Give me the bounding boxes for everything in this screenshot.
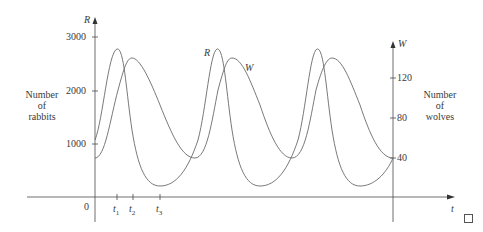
rabbit-axis-title: Number of rabbits: [22, 89, 62, 122]
origin-label: 0: [84, 201, 89, 212]
wolf-axis-arrow-icon: [391, 41, 396, 48]
end-of-proof-square-icon: [464, 214, 473, 223]
tick-t1: t1: [113, 203, 119, 219]
wolf-axis-title: Number of wolves: [419, 89, 461, 122]
rabbit-axis-symbol: R: [84, 14, 90, 25]
rabbit-tick-3000: 3000: [66, 31, 86, 42]
t-axis-symbol: t: [451, 203, 454, 214]
rabbit-axis-arrow-icon: [93, 17, 98, 24]
curve-label-w: W: [245, 62, 253, 73]
wolf-tick-80: 80: [397, 112, 407, 123]
wolf-tick-40: 40: [397, 152, 407, 163]
wolf-tick-120: 120: [397, 72, 412, 83]
tick-t3: t3: [156, 203, 162, 219]
wolves-curve: [95, 58, 393, 158]
curve-label-r: R: [204, 47, 210, 58]
rabbit-tick-1000: 1000: [66, 138, 86, 149]
wolf-axis-symbol: W: [398, 38, 406, 49]
rabbits-curve: [95, 49, 393, 186]
t-axis-arrow-icon: [447, 195, 455, 200]
rabbit-tick-2000: 2000: [66, 85, 86, 96]
tick-t2: t2: [129, 203, 135, 219]
